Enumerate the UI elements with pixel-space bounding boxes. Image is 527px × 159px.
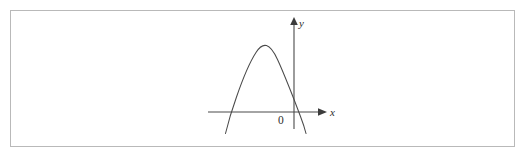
y-axis-arrowhead bbox=[290, 17, 298, 25]
x-axis-arrowhead bbox=[318, 108, 327, 116]
figure-screenshot: y x 0 bbox=[0, 0, 527, 159]
origin-label: 0 bbox=[278, 114, 284, 126]
y-axis-label: y bbox=[298, 17, 304, 29]
x-axis-label: x bbox=[329, 106, 335, 118]
coordinate-graph: y x 0 bbox=[0, 0, 527, 159]
